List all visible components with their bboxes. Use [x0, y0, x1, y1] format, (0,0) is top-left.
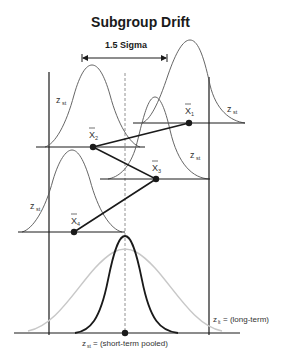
- zst-label-2: z st: [227, 104, 238, 115]
- svg-text:z: z: [82, 339, 86, 348]
- svg-text:st: st: [196, 155, 201, 161]
- svg-text:lt: lt: [218, 319, 221, 325]
- svg-text:z: z: [213, 315, 217, 324]
- xbar-4-label: X 4: [71, 214, 80, 227]
- svg-text:st: st: [233, 109, 238, 115]
- svg-text:z: z: [30, 201, 35, 211]
- xbar-2-label: X 2: [89, 128, 98, 141]
- short-term-label: z st = (short-term pooled): [82, 339, 168, 349]
- zst-label-1: z st: [56, 95, 67, 106]
- svg-text:z: z: [227, 104, 232, 114]
- drift-diagram: X 1 X 2 X 3 X 4 z st z st z st z st z lt…: [0, 0, 281, 357]
- svg-text:= (long-term): = (long-term): [223, 315, 269, 324]
- xbar-1-label: X 1: [185, 104, 194, 117]
- svg-text:z: z: [56, 95, 61, 105]
- xbar-3-label: X 3: [152, 161, 161, 174]
- svg-text:st: st: [62, 100, 67, 106]
- svg-text:st: st: [87, 343, 92, 349]
- svg-text:3: 3: [158, 168, 161, 174]
- svg-text:2: 2: [95, 135, 98, 141]
- svg-text:4: 4: [77, 221, 80, 227]
- svg-text:= (short-term pooled): = (short-term pooled): [93, 339, 168, 348]
- short-term-curve: [75, 236, 178, 333]
- svg-text:z: z: [190, 150, 195, 160]
- shift-arrow: [82, 54, 167, 62]
- zst-label-4: z st: [30, 201, 41, 212]
- zst-label-3: z st: [190, 150, 201, 161]
- svg-text:st: st: [36, 206, 41, 212]
- long-term-label: z lt = (long-term): [213, 315, 269, 325]
- pooled-mean-dot: [122, 330, 128, 336]
- svg-text:1: 1: [191, 111, 194, 117]
